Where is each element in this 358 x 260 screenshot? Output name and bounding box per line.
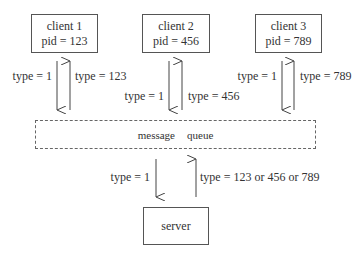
client-3-up-label: type = 789 — [300, 69, 351, 83]
client-1-down-label: type = 1 — [13, 69, 52, 83]
client-2-pid: pid = 456 — [153, 34, 199, 49]
client-2-box: client 2 pid = 456 — [142, 14, 210, 53]
server-up-label: type = 123 or 456 or 789 — [200, 170, 319, 184]
client-3-pid: pid = 789 — [265, 34, 311, 49]
message-queue-box: message queue — [35, 120, 316, 149]
client-2-name: client 2 — [158, 19, 194, 34]
server-box: server — [143, 207, 209, 245]
client-1-box: client 1 pid = 123 — [31, 14, 98, 53]
client-1-pid: pid = 123 — [41, 34, 87, 49]
server-down-label: type = 1 — [111, 170, 150, 184]
client-3-name: client 3 — [271, 19, 307, 34]
client-2-down-label: type = 1 — [125, 89, 164, 103]
client-1-up-label: type = 123 — [75, 69, 126, 83]
queue-label-message: message — [138, 129, 175, 141]
client-3-box: client 3 pid = 789 — [255, 14, 322, 53]
client-3-down-label: type = 1 — [238, 69, 277, 83]
server-name: server — [161, 219, 190, 234]
client-1-name: client 1 — [47, 19, 83, 34]
queue-label-queue: queue — [187, 129, 213, 141]
client-2-up-label: type = 456 — [188, 89, 239, 103]
